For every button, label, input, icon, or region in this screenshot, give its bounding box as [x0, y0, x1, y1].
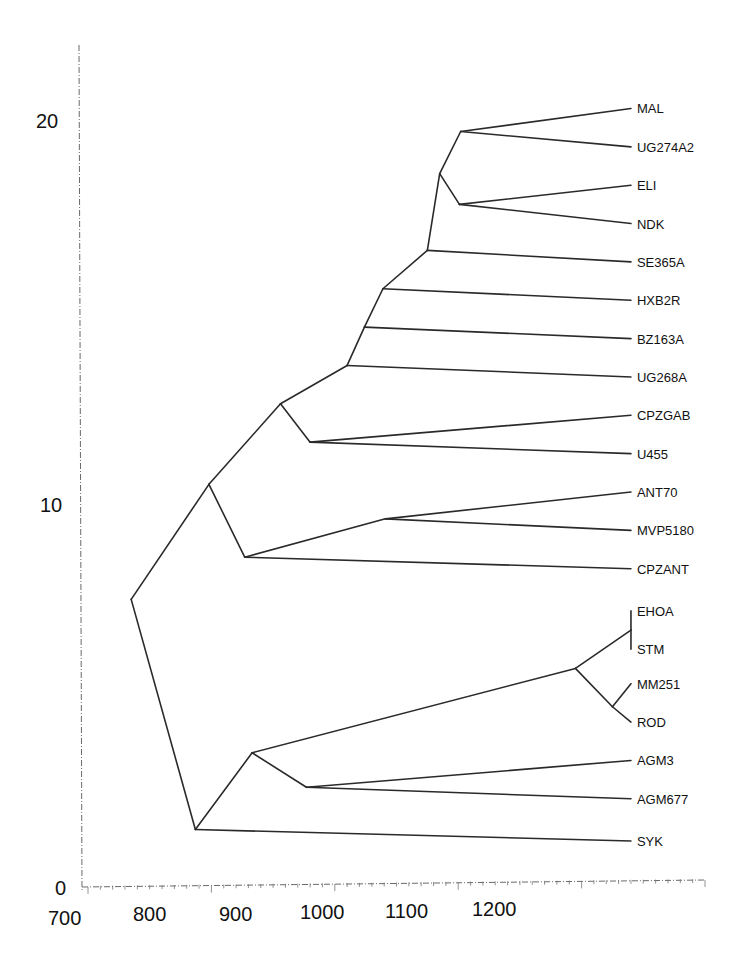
tree-branch: [427, 174, 439, 251]
y-tick-label: 0: [55, 877, 66, 899]
x-tick-label: 1200: [472, 898, 517, 920]
tree-branch: [440, 174, 460, 205]
leaf-label: HXB2R: [637, 293, 680, 308]
leaf-label: UG274A2: [637, 140, 694, 155]
leaf-label: AGM677: [637, 792, 688, 807]
tree-branch: [575, 668, 612, 706]
tree-branch: [459, 185, 631, 204]
tree-branch: [575, 630, 631, 668]
tree-branch: [252, 668, 575, 752]
tree-branch: [385, 492, 631, 519]
tree-branch: [306, 760, 631, 787]
tree-branch: [306, 787, 631, 799]
tree-branch: [252, 753, 306, 788]
tree-branch: [195, 829, 631, 841]
leaf-label: ELI: [637, 178, 657, 193]
tree-branch: [427, 250, 631, 262]
x-axis-line: [82, 880, 705, 887]
tree-branch: [209, 404, 281, 485]
x-tick-label: 1100: [385, 900, 428, 922]
leaf-label: ANT70: [637, 485, 677, 500]
leaf-label: MM251: [637, 677, 680, 692]
tree-branch: [310, 442, 631, 454]
x-tick-label: 1000: [300, 901, 345, 923]
tree-branch: [385, 519, 631, 531]
leaf-label: U455: [637, 447, 668, 462]
x-tick-label: 700: [48, 907, 81, 929]
tree-branch: [383, 250, 427, 288]
tree-branch: [281, 365, 348, 403]
dendrogram-chart: 20 10 0 700 800 900 1000 1100 1200 MALUG…: [0, 0, 753, 963]
x-tick-label: 900: [219, 903, 252, 925]
leaf-label: AGM3: [637, 753, 674, 768]
x-tick-label: 800: [133, 903, 166, 925]
tree-branches: [131, 108, 631, 840]
y-tick-label: 10: [40, 494, 62, 516]
leaf-label: EHOA: [637, 604, 674, 619]
leaf-label: ROD: [637, 715, 666, 730]
tree-branch: [347, 365, 631, 377]
y-axis-line: [79, 45, 82, 890]
tree-branch: [364, 327, 631, 339]
leaf-label: MAL: [637, 101, 664, 116]
tree-branch: [131, 484, 209, 599]
leaf-label: MVP5180: [637, 523, 694, 538]
leaf-label: STM: [637, 642, 664, 657]
leaf-label: SE365A: [637, 255, 685, 270]
tree-branch: [245, 519, 386, 557]
tree-branch: [195, 753, 252, 830]
tree-branch: [347, 327, 364, 365]
leaf-label: UG268A: [637, 370, 687, 385]
tree-branch: [612, 684, 631, 707]
leaf-label: NDK: [637, 217, 665, 232]
tree-branch: [459, 204, 631, 223]
tree-branch: [612, 707, 631, 722]
tree-branch: [209, 484, 245, 557]
tree-branch: [310, 415, 631, 442]
leaf-label: BZ163A: [637, 332, 684, 347]
tree-branch: [245, 557, 631, 569]
leaf-label: CPZANT: [637, 562, 689, 577]
tree-branch: [131, 599, 195, 829]
leaf-labels: MALUG274A2ELINDKSE365AHXB2RBZ163AUG268AC…: [637, 101, 694, 848]
tree-branch: [281, 404, 311, 442]
tree-branch: [440, 132, 461, 174]
tree-branch: [364, 289, 383, 327]
leaf-label: SYK: [637, 834, 663, 849]
y-tick-label: 20: [36, 110, 58, 132]
leaf-label: CPZGAB: [637, 408, 690, 423]
tree-branch: [461, 108, 631, 131]
tree-branch: [461, 132, 631, 147]
tree-branch: [383, 289, 631, 301]
